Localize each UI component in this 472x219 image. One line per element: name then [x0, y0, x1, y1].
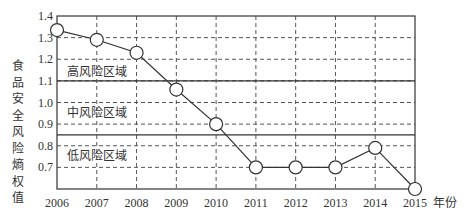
x-tick-label: 2006 — [45, 196, 69, 210]
data-point-marker — [90, 33, 103, 46]
y-tick-label: 1.1 — [38, 74, 53, 88]
data-point-marker — [249, 161, 262, 174]
zone-label: 中风险区域 — [67, 105, 127, 120]
x-tick-label: 2011 — [244, 196, 268, 210]
x-tick-label: 2010 — [204, 196, 228, 210]
data-point-marker — [170, 83, 183, 96]
data-point-marker — [51, 24, 64, 37]
x-tick-label: 2012 — [284, 196, 308, 210]
line-chart: 0.70.80.91.01.11.21.31.42006200720082009… — [0, 0, 472, 219]
data-point-marker — [289, 161, 302, 174]
x-tick-label: 2014 — [363, 196, 387, 210]
y-tick-label: 0.7 — [38, 160, 53, 174]
x-tick-label: 2013 — [323, 196, 347, 210]
x-tick-label: 2008 — [125, 196, 149, 210]
x-tick-label: 2009 — [164, 196, 188, 210]
x-axis-unit-label: 年份 — [433, 196, 457, 210]
y-tick-label: 0.9 — [38, 117, 53, 131]
y-tick-label: 0.8 — [38, 139, 53, 153]
data-point-marker — [369, 141, 382, 154]
risk-zone-labels: 高风险区域中风险区域低风险区域 — [67, 64, 127, 163]
zone-label: 高风险区域 — [67, 64, 127, 79]
x-tick-label: 2007 — [85, 196, 109, 210]
data-point-marker — [130, 46, 143, 59]
y-tick-label: 1.4 — [38, 9, 53, 23]
data-point-marker — [409, 183, 422, 196]
data-point-marker — [329, 161, 342, 174]
grid-lines — [57, 16, 415, 189]
y-tick-label: 1.2 — [38, 52, 53, 66]
zone-label: 低风险区域 — [67, 148, 127, 163]
y-tick-label: 1.0 — [38, 96, 53, 110]
x-tick-label: 2015 — [403, 196, 427, 210]
data-point-marker — [210, 118, 223, 131]
